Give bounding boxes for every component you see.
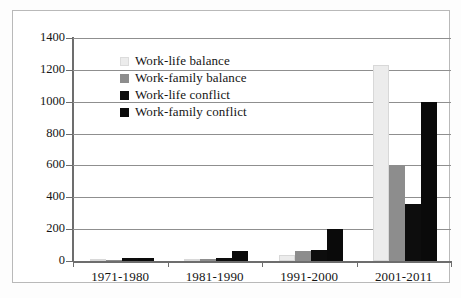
- x-axis-category-label: 1971-1980: [73, 269, 168, 284]
- legend-item-label: Work-family conflict: [135, 105, 247, 119]
- legend-item: Work-family conflict: [120, 104, 290, 120]
- legend-item-label: Work-life conflict: [135, 88, 230, 102]
- bar: [295, 251, 311, 261]
- legend-swatch-icon: [120, 57, 129, 66]
- legend-item-label: Work-family balance: [135, 71, 247, 85]
- chart-frame: 0200400600800100012001400 Work-life bala…: [12, 10, 450, 283]
- x-axis-tick: [168, 261, 169, 267]
- bar: [405, 204, 421, 261]
- y-axis-tick: [66, 229, 73, 230]
- x-axis-tick: [451, 261, 452, 267]
- y-axis-tick-labels: 0200400600800100012001400: [19, 11, 65, 298]
- legend-swatch-icon: [120, 74, 129, 83]
- bar: [327, 229, 343, 261]
- y-axis-tick-label: 1000: [21, 95, 65, 107]
- bar: [311, 250, 327, 261]
- y-axis-tick: [66, 70, 73, 71]
- legend-item: Work-life conflict: [120, 87, 290, 103]
- x-axis-tick: [73, 261, 74, 267]
- y-axis-tick-label: 200: [21, 222, 65, 234]
- legend-swatch-icon: [120, 91, 129, 100]
- chart-legend: Work-life balanceWork-family balanceWork…: [120, 53, 290, 121]
- y-axis-tick-label: 400: [21, 190, 65, 202]
- bar: [389, 165, 405, 261]
- bar: [373, 65, 389, 261]
- y-axis-tick: [66, 197, 73, 198]
- x-axis-category-label: 1981-1990: [168, 269, 263, 284]
- chart-figure: 0200400600800100012001400 Work-life bala…: [0, 0, 461, 298]
- y-axis-tick: [66, 134, 73, 135]
- x-axis-category-label: 2001-2011: [357, 269, 452, 284]
- legend-item: Work-family balance: [120, 70, 290, 86]
- x-axis-category-label: 1991-2000: [262, 269, 357, 284]
- y-axis-tick: [66, 38, 73, 39]
- y-axis-tick-label: 1200: [21, 63, 65, 75]
- legend-item-label: Work-life balance: [135, 54, 230, 68]
- legend-swatch-icon: [120, 108, 129, 117]
- y-axis-tick-label: 1400: [21, 31, 65, 43]
- x-axis-tick: [262, 261, 263, 267]
- bar: [232, 251, 248, 261]
- y-axis-tick: [66, 102, 73, 103]
- legend-item: Work-life balance: [120, 53, 290, 69]
- bar-group: [357, 38, 452, 261]
- bar: [421, 102, 437, 261]
- y-axis-tick-label: 0: [21, 254, 65, 266]
- y-axis-tick: [66, 261, 73, 262]
- y-axis-tick-label: 600: [21, 158, 65, 170]
- y-axis-tick: [66, 165, 73, 166]
- y-axis-tick-label: 800: [21, 127, 65, 139]
- x-axis-tick: [357, 261, 358, 267]
